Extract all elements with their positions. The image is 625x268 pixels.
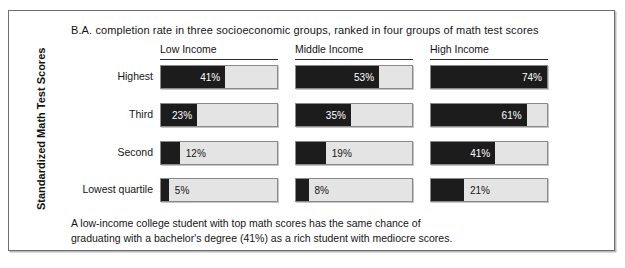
caption-line-2: graduating with a bachelor's degree (41%… <box>71 231 551 246</box>
bar-track: 41% <box>430 141 548 165</box>
bar-fill <box>431 179 464 201</box>
column-rule <box>430 59 548 60</box>
row-label-highest: Highest <box>57 70 153 82</box>
bar-track: 5% <box>160 178 278 202</box>
row-label-second: Second <box>57 146 153 158</box>
column-header-low-income: Low Income <box>160 43 217 55</box>
bar-fill: 41% <box>431 142 495 164</box>
bar-track: 21% <box>430 178 548 202</box>
bar-value-label: 5% <box>175 185 189 196</box>
bar-value-label: 8% <box>315 185 329 196</box>
bar-value-label: 19% <box>332 148 352 159</box>
bar-track: 35% <box>295 103 413 127</box>
bar-value-label: 41% <box>200 72 220 83</box>
bar-track: 61% <box>430 103 548 127</box>
figure-frame: B.A. completion rate in three socioecono… <box>8 10 615 251</box>
column-rule <box>295 59 413 60</box>
column-header-high-income: High Income <box>430 43 489 55</box>
caption-line-1: A low-income college student with top ma… <box>71 216 551 231</box>
bar-track: 19% <box>295 141 413 165</box>
row-label-lowest-quartile: Lowest quartile <box>57 183 153 195</box>
bar-fill: 23% <box>161 104 197 126</box>
bar-value-label: 23% <box>172 110 192 121</box>
bar-fill: 35% <box>296 104 351 126</box>
bar-fill: 61% <box>431 104 527 126</box>
bar-fill: 41% <box>161 66 225 88</box>
bar-value-label: 61% <box>502 110 522 121</box>
bar-fill <box>296 179 309 201</box>
bar-track: 41% <box>160 65 278 89</box>
bar-track: 53% <box>295 65 413 89</box>
bar-value-label: 74% <box>522 72 542 83</box>
column-header-middle-income: Middle Income <box>295 43 363 55</box>
bar-track: 74% <box>430 65 548 89</box>
bar-value-label: 35% <box>326 110 346 121</box>
bar-value-label: 12% <box>186 148 206 159</box>
bar-value-label: 21% <box>470 185 490 196</box>
row-label-third: Third <box>57 108 153 120</box>
bar-fill <box>161 142 180 164</box>
bar-fill: 74% <box>431 66 547 88</box>
column-rule <box>160 59 278 60</box>
bar-fill <box>296 142 326 164</box>
bar-fill: 53% <box>296 66 379 88</box>
chart-caption: A low-income college student with top ma… <box>71 216 551 245</box>
bar-track: 12% <box>160 141 278 165</box>
bar-value-label: 41% <box>470 148 490 159</box>
bar-fill <box>161 179 169 201</box>
bar-track: 8% <box>295 178 413 202</box>
bar-track: 23% <box>160 103 278 127</box>
bar-value-label: 53% <box>354 72 374 83</box>
